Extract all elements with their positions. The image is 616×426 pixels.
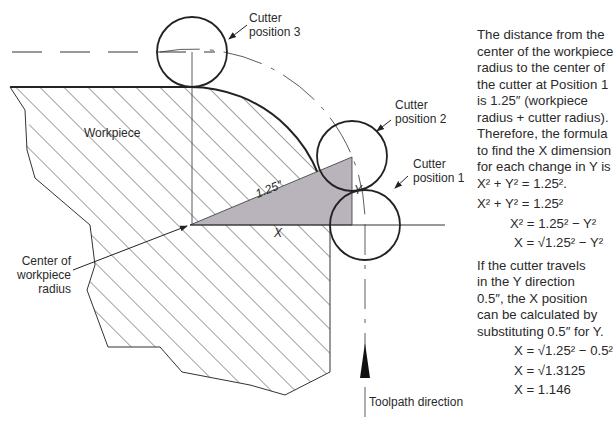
intro-line: The distance from the bbox=[477, 27, 616, 44]
label-line: workpiece bbox=[5, 268, 71, 282]
label-cutter-position-2: Cutter position 2 bbox=[395, 98, 446, 126]
label-line: Cutter bbox=[413, 157, 464, 171]
leader-arrow-cutter-2 bbox=[377, 120, 391, 131]
equation: X = √1.25² − Y² bbox=[477, 235, 616, 252]
paragraph-line: substituting 0.5″ for Y. bbox=[477, 324, 616, 341]
workpiece bbox=[0, 80, 340, 410]
equation: X = √1.25² − 0.5² bbox=[477, 343, 616, 360]
intro-line: center of the workpiece bbox=[477, 44, 616, 61]
cutter-position-3 bbox=[157, 17, 227, 87]
paragraph-line: 0.5″, the X position bbox=[477, 291, 616, 308]
intro-line: to find the X dimension bbox=[477, 143, 616, 160]
equation: X² + Y² = 1.25² bbox=[477, 196, 616, 213]
intro-line: radius + cutter radius). bbox=[477, 110, 616, 127]
label-center-of-workpiece-radius: Center of workpiece radius bbox=[5, 254, 71, 296]
equation: X = 1.146 bbox=[477, 382, 616, 399]
label-x-leg: X bbox=[274, 226, 282, 240]
intro-line: the cutter at Position 1 bbox=[477, 77, 616, 94]
paragraph-line: can be calculated by bbox=[477, 307, 616, 324]
paragraph-line: in the Y direction bbox=[477, 274, 616, 291]
intro-line: for each change in Y is bbox=[477, 159, 616, 176]
label-workpiece: Workpiece bbox=[84, 126, 140, 140]
label-cutter-position-3: Cutter position 3 bbox=[249, 11, 300, 39]
intro-line: is 1.25″ (workpiece bbox=[477, 93, 616, 110]
label-line: Cutter bbox=[395, 98, 446, 112]
label-y-leg: Y bbox=[354, 183, 362, 197]
label-line: position 3 bbox=[249, 25, 300, 39]
label-cutter-position-1: Cutter position 1 bbox=[413, 157, 464, 185]
intro-line: Therefore, the formula bbox=[477, 126, 616, 143]
label-line: radius bbox=[5, 282, 71, 296]
equation: X = √1.3125 bbox=[477, 363, 616, 380]
explanation-panel: The distance from the center of the work… bbox=[477, 27, 616, 399]
label-line: Cutter bbox=[249, 11, 300, 25]
leader-arrow-cutter-3 bbox=[229, 25, 247, 39]
label-line: position 1 bbox=[413, 171, 464, 185]
paragraph-line: If the cutter travels bbox=[477, 258, 616, 275]
label-line: Center of bbox=[5, 254, 71, 268]
equation: X² + Y² = 1.25². bbox=[477, 176, 616, 193]
leader-arrow-cutter-1 bbox=[395, 176, 408, 188]
equation: X² = 1.25² − Y² bbox=[477, 216, 616, 233]
label-line: position 2 bbox=[395, 112, 446, 126]
intro-line: radius to the center of bbox=[477, 60, 616, 77]
toolpath-arrow-icon bbox=[360, 343, 370, 378]
label-toolpath-direction: Toolpath direction bbox=[369, 395, 463, 409]
